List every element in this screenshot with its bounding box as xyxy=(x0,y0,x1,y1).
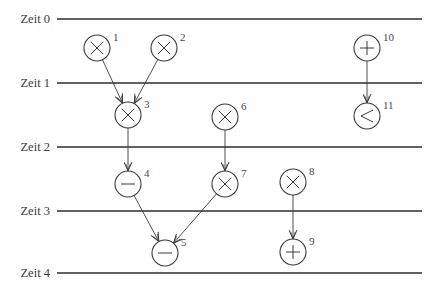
node-9: 9 xyxy=(280,235,315,265)
time-step-3: Zeit 3 xyxy=(20,204,422,218)
node-11: 11 xyxy=(354,99,394,129)
node-4: 4 xyxy=(115,167,150,197)
time-step-label: Zeit 3 xyxy=(20,204,50,218)
node-number: 11 xyxy=(383,99,394,111)
time-step-label: Zeit 0 xyxy=(20,12,50,26)
node-10: 10 xyxy=(354,31,395,61)
node-3: 3 xyxy=(115,98,150,128)
node-number: 7 xyxy=(241,167,247,179)
node-number: 2 xyxy=(180,31,186,43)
time-step-4: Zeit 4 xyxy=(20,266,422,280)
node-6: 6 xyxy=(212,100,247,130)
time-step-0: Zeit 0 xyxy=(20,12,422,26)
node-number: 3 xyxy=(144,98,150,110)
node-circle xyxy=(354,103,380,129)
dependency-edges xyxy=(103,60,368,243)
node-number: 9 xyxy=(309,235,315,247)
node-2: 2 xyxy=(151,31,186,61)
edge-4-to-5 xyxy=(134,196,159,242)
node-number: 4 xyxy=(144,167,150,179)
operation-nodes: 1234567891011 xyxy=(84,31,395,266)
time-step-1: Zeit 1 xyxy=(20,76,422,90)
time-step-label: Zeit 1 xyxy=(20,76,50,90)
node-number: 1 xyxy=(113,31,119,43)
node-number: 5 xyxy=(181,236,187,248)
node-8: 8 xyxy=(280,165,315,195)
time-step-label: Zeit 4 xyxy=(20,266,50,280)
edge-1-to-3 xyxy=(103,60,123,103)
node-number: 8 xyxy=(309,165,315,177)
node-number: 6 xyxy=(241,100,247,112)
time-step-2: Zeit 2 xyxy=(20,140,422,154)
node-1: 1 xyxy=(84,31,119,61)
scheduling-diagram: Zeit 0Zeit 1Zeit 2Zeit 3Zeit 4 123456789… xyxy=(0,0,439,294)
edge-2-to-3 xyxy=(134,60,157,104)
node-5: 5 xyxy=(152,236,187,266)
time-step-label: Zeit 2 xyxy=(20,140,50,154)
node-number: 10 xyxy=(383,31,395,43)
node-7: 7 xyxy=(212,167,247,197)
